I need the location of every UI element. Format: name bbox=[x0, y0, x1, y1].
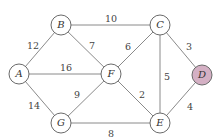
node-e: E bbox=[150, 113, 170, 133]
node-g: G bbox=[51, 113, 71, 133]
node-a: A bbox=[9, 64, 29, 84]
node-label: C bbox=[156, 19, 164, 30]
edge-weight-label: 14 bbox=[28, 100, 40, 111]
edge-weight-label: 8 bbox=[108, 128, 114, 139]
node-label: F bbox=[107, 68, 116, 79]
node-b: B bbox=[51, 15, 71, 35]
node-label: G bbox=[57, 117, 65, 128]
node-f: F bbox=[101, 64, 121, 84]
edge-f-g bbox=[61, 74, 111, 123]
node-label: B bbox=[56, 19, 64, 30]
edge-weight-label: 9 bbox=[74, 89, 80, 100]
node-d: D bbox=[192, 65, 212, 85]
edge-weight-label: 5 bbox=[164, 71, 170, 82]
edge-weight-label: 2 bbox=[139, 89, 145, 100]
node-c: C bbox=[150, 15, 170, 35]
node-label: D bbox=[197, 69, 206, 80]
edge-weight-label: 6 bbox=[125, 41, 131, 52]
edge-weight-label: 10 bbox=[105, 13, 117, 24]
weighted-graph-diagram: 1210716149653248 ABCDEFG bbox=[0, 0, 223, 140]
edge-weight-label: 12 bbox=[27, 40, 39, 51]
edge-weight-label: 16 bbox=[60, 62, 72, 73]
edge-weight-label: 7 bbox=[89, 40, 95, 51]
node-label: E bbox=[155, 117, 164, 128]
edge-weight-label: 4 bbox=[187, 101, 193, 112]
node-label: A bbox=[14, 68, 22, 79]
edge-weight-label: 3 bbox=[186, 41, 192, 52]
